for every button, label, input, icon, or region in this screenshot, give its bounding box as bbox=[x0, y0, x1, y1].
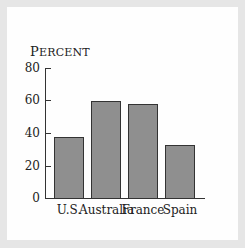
y-axis-label: PERCENT bbox=[30, 44, 90, 59]
y-tick-60 bbox=[45, 100, 51, 101]
y-tick-label: 20 bbox=[18, 160, 40, 172]
y-tick-label: 80 bbox=[18, 62, 40, 74]
y-axis-label-rest: ERCENT bbox=[39, 46, 90, 59]
y-tick-20 bbox=[45, 166, 51, 167]
y-tick-label: 0 bbox=[18, 192, 40, 204]
bar-australia bbox=[91, 101, 121, 199]
bar-france bbox=[128, 104, 158, 199]
y-tick-80 bbox=[45, 68, 51, 69]
bar-spain bbox=[165, 145, 195, 199]
y-tick-40 bbox=[45, 133, 51, 134]
y-axis-label-initial: P bbox=[30, 44, 39, 59]
y-tick-label: 60 bbox=[18, 94, 40, 106]
bar-us bbox=[54, 137, 84, 199]
x-tick-label: Spain bbox=[153, 203, 207, 217]
y-tick-label: 40 bbox=[18, 127, 40, 139]
